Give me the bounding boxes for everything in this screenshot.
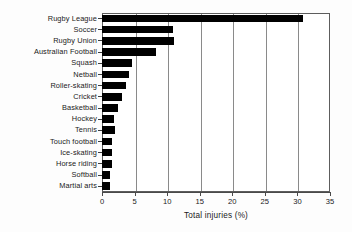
- x-tick-label: 25: [261, 197, 269, 206]
- bar-row: [102, 58, 330, 69]
- bar: [102, 171, 110, 179]
- category-row: Ice-skating: [0, 147, 102, 158]
- category-row: Basketball: [0, 103, 102, 114]
- bar-row: [102, 91, 330, 102]
- bar-row: [102, 47, 330, 58]
- category-row: Roller-skating: [0, 80, 102, 91]
- bar-chart: Rugby League Soccer Rugby Union Australi…: [0, 0, 352, 232]
- bar: [102, 37, 174, 45]
- bar-row: [102, 114, 330, 125]
- x-tick-label: 10: [163, 197, 171, 206]
- category-row: Australian Football: [0, 47, 102, 58]
- bar: [102, 138, 112, 146]
- category-axis: Rugby League Soccer Rugby Union Australi…: [0, 13, 102, 192]
- category-label: Touch football: [50, 138, 102, 146]
- x-tick: [200, 192, 201, 196]
- bar: [102, 71, 129, 79]
- category-label: Ice-skating: [60, 149, 102, 157]
- bar: [102, 82, 126, 90]
- bars-layer: [102, 13, 330, 192]
- category-row: Martial arts: [0, 181, 102, 192]
- bar: [102, 182, 110, 190]
- bar: [102, 160, 112, 168]
- bar-row: [102, 125, 330, 136]
- bar-row: [102, 103, 330, 114]
- category-row: Horse riding: [0, 158, 102, 169]
- x-tick-label: 0: [100, 197, 104, 206]
- x-tick: [297, 192, 298, 196]
- bar-row: [102, 24, 330, 35]
- bar-row: [102, 147, 330, 158]
- x-tick-label: 5: [132, 197, 136, 206]
- x-tick: [167, 192, 168, 196]
- category-row: Hockey: [0, 114, 102, 125]
- bar-row: [102, 136, 330, 147]
- bar-row: [102, 170, 330, 181]
- category-row: Rugby League: [0, 13, 102, 24]
- category-row: Rugby Union: [0, 35, 102, 46]
- category-label: Australian Football: [34, 48, 102, 56]
- bar: [102, 93, 122, 101]
- x-tick-label: 35: [326, 197, 334, 206]
- bar: [102, 104, 118, 112]
- x-tick-label: 20: [228, 197, 236, 206]
- bar-row: [102, 13, 330, 24]
- bar: [102, 48, 156, 56]
- category-label: Rugby Union: [53, 37, 102, 45]
- category-label: Horse riding: [56, 160, 102, 168]
- bar-row: [102, 80, 330, 91]
- category-row: Netball: [0, 69, 102, 80]
- category-label: Basketball: [62, 104, 102, 112]
- category-label: Martial arts: [59, 182, 102, 190]
- x-tick: [102, 192, 103, 196]
- category-label: Rugby League: [48, 15, 102, 23]
- category-row: Soccer: [0, 24, 102, 35]
- x-tick-label: 30: [293, 197, 301, 206]
- bar: [102, 115, 114, 123]
- category-row: Softball: [0, 170, 102, 181]
- bar-row: [102, 181, 330, 192]
- bar: [102, 15, 303, 23]
- bar: [102, 59, 132, 67]
- x-axis-line: [102, 192, 330, 193]
- x-tick: [135, 192, 136, 196]
- bar: [102, 149, 112, 157]
- x-axis-title: Total injuries (%): [102, 211, 330, 220]
- bar-row: [102, 69, 330, 80]
- x-tick: [330, 192, 331, 196]
- category-row: Cricket: [0, 91, 102, 102]
- bar-row: [102, 35, 330, 46]
- x-tick: [232, 192, 233, 196]
- bar-row: [102, 158, 330, 169]
- category-row: Squash: [0, 58, 102, 69]
- x-tick: [265, 192, 266, 196]
- bar: [102, 26, 173, 34]
- x-tick-label: 15: [195, 197, 203, 206]
- category-label: Roller-skating: [50, 82, 102, 90]
- category-row: Touch football: [0, 136, 102, 147]
- category-row: Tennis: [0, 125, 102, 136]
- bar: [102, 126, 115, 134]
